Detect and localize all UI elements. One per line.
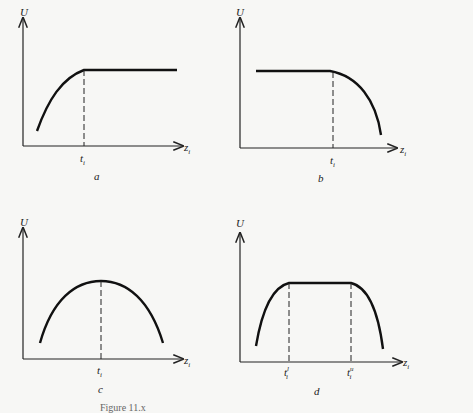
panel-label: a: [94, 170, 100, 182]
panel-a: U zi ti a: [20, 6, 190, 182]
x-axis-label: zi: [399, 143, 406, 158]
utility-curve: [256, 71, 381, 135]
panel-d: U zi tli tui d: [236, 217, 409, 397]
utility-curve: [37, 70, 177, 131]
panel-label: c: [98, 383, 103, 395]
x-axis-label: zi: [402, 356, 409, 371]
tick-label-t-i: ti: [330, 154, 335, 169]
figure-caption: Figure 11.x: [100, 402, 146, 413]
panel-label: b: [318, 172, 324, 184]
y-axis-label: U: [236, 217, 245, 229]
y-axis-label: U: [236, 6, 245, 18]
panel-b: U zi ti b: [236, 6, 406, 184]
tick-label-t-i-lower: tli: [284, 365, 289, 381]
y-axis-label: U: [20, 216, 29, 228]
tick-label-t-i: ti: [97, 364, 102, 379]
tick-label-t-i: ti: [80, 152, 85, 167]
y-axis-label: U: [20, 6, 29, 18]
panel-label: d: [314, 385, 320, 397]
tick-label-t-i-upper: tui: [347, 365, 354, 381]
x-axis-label: zi: [183, 354, 190, 369]
utility-curve: [256, 283, 383, 349]
panel-c: U zi ti c: [20, 216, 190, 395]
x-axis-label: zi: [183, 141, 190, 156]
